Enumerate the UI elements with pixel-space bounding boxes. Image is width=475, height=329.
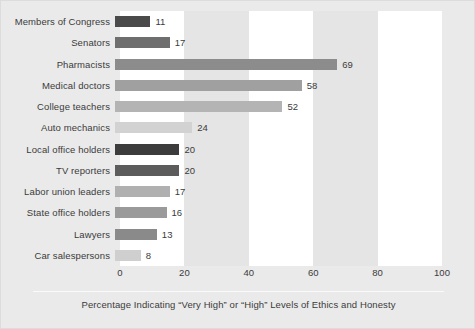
x-tick-label: 60 — [308, 267, 319, 278]
bar — [115, 16, 150, 27]
bar — [115, 207, 167, 218]
bar — [115, 122, 192, 133]
category-label: Members of Congress — [1, 16, 115, 27]
bar — [115, 59, 337, 70]
bar — [115, 250, 141, 261]
bar-value-label: 69 — [342, 59, 353, 70]
bar — [115, 165, 179, 176]
bar-row: Auto mechanics24 — [1, 117, 475, 138]
bar-value-label: 13 — [162, 229, 173, 240]
bar-track: 16 — [115, 202, 475, 223]
category-label: Labor union leaders — [1, 186, 115, 197]
category-label: TV reporters — [1, 165, 115, 176]
bar — [115, 144, 179, 155]
bar-rows: Members of Congress11Senators17Pharmacis… — [1, 11, 475, 266]
bar-track: 8 — [115, 245, 475, 266]
bar-track: 52 — [115, 96, 475, 117]
category-label: Medical doctors — [1, 80, 115, 91]
bar-value-label: 58 — [307, 80, 318, 91]
x-tick-label: 20 — [179, 267, 190, 278]
bar-row: Lawyers13 — [1, 224, 475, 245]
x-tick-label: 100 — [434, 267, 450, 278]
bar-row: College teachers52 — [1, 96, 475, 117]
category-label: College teachers — [1, 101, 115, 112]
bar-track: 11 — [115, 11, 475, 32]
bar-track: 20 — [115, 160, 475, 181]
category-label: Car salespersons — [1, 250, 115, 261]
category-label: Auto mechanics — [1, 122, 115, 133]
bar-track: 13 — [115, 224, 475, 245]
bar-track: 58 — [115, 75, 475, 96]
x-tick-label: 40 — [244, 267, 255, 278]
bar-row: Medical doctors58 — [1, 75, 475, 96]
bar-row: Car salespersons8 — [1, 245, 475, 266]
bar-value-label: 16 — [172, 207, 183, 218]
x-tick-label: 0 — [117, 267, 122, 278]
x-axis: 020406080100 — [120, 267, 442, 283]
bar-track: 69 — [115, 54, 475, 75]
category-label: Pharmacists — [1, 59, 115, 70]
caption-divider — [33, 291, 444, 292]
bar-track: 20 — [115, 139, 475, 160]
bar — [115, 101, 282, 112]
bar-row: State office holders16 — [1, 202, 475, 223]
category-label: State office holders — [1, 207, 115, 218]
bar-row: Labor union leaders17 — [1, 181, 475, 202]
bar-track: 17 — [115, 181, 475, 202]
bar-row: Senators17 — [1, 32, 475, 53]
x-axis-caption: Percentage Indicating “Very High” or “Hi… — [1, 299, 475, 310]
bar-value-label: 20 — [184, 165, 195, 176]
bar-track: 17 — [115, 32, 475, 53]
bar-value-label: 24 — [197, 122, 208, 133]
bar-row: Pharmacists69 — [1, 54, 475, 75]
bar-value-label: 20 — [184, 144, 195, 155]
category-label: Lawyers — [1, 229, 115, 240]
bar-row: Local office holders20 — [1, 139, 475, 160]
bar — [115, 80, 302, 91]
bar-value-label: 17 — [175, 37, 186, 48]
bar — [115, 229, 157, 240]
category-label: Local office holders — [1, 144, 115, 155]
x-tick-label: 80 — [372, 267, 383, 278]
chart-figure: Members of Congress11Senators17Pharmacis… — [0, 0, 475, 329]
bar-track: 24 — [115, 117, 475, 138]
bar — [115, 37, 170, 48]
bar-value-label: 11 — [155, 16, 165, 27]
bar-value-label: 17 — [175, 186, 186, 197]
category-label: Senators — [1, 37, 115, 48]
bar-value-label: 8 — [146, 250, 151, 261]
bar-row: Members of Congress11 — [1, 11, 475, 32]
bar-row: TV reporters20 — [1, 160, 475, 181]
bar — [115, 186, 170, 197]
bar-value-label: 52 — [287, 101, 298, 112]
